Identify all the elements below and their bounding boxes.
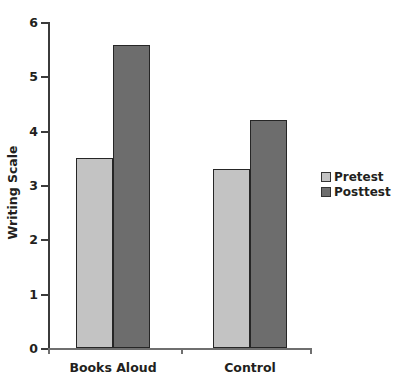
y-axis-tick-1 bbox=[41, 294, 48, 296]
y-axis-tick-label-0-wrap: 0 bbox=[0, 341, 38, 355]
y-axis-tick-0 bbox=[41, 348, 48, 350]
bar-control-pretest bbox=[213, 169, 250, 348]
y-axis-tick-label-0: 0 bbox=[4, 341, 38, 356]
y-axis-tick-label-1-wrap: 1 bbox=[0, 287, 38, 301]
y-axis-tick-label-6-wrap: 6 bbox=[0, 15, 38, 29]
y-axis-line bbox=[48, 22, 50, 349]
x-axis-tick-middle bbox=[181, 348, 183, 354]
bar-control-posttest bbox=[250, 120, 287, 348]
y-axis-tick-label-5-wrap: 5 bbox=[0, 69, 38, 83]
y-axis-tick-5 bbox=[41, 76, 48, 78]
legend-swatch-posttest-icon bbox=[321, 187, 331, 197]
legend-item-posttest: Posttest bbox=[321, 185, 391, 198]
bar-chart: 0 1 2 3 4 5 6 Writing Scale Books Aloud … bbox=[0, 0, 396, 390]
y-axis-tick-6 bbox=[41, 22, 48, 24]
x-axis-label-control: Control bbox=[195, 360, 305, 375]
y-axis-tick-label-5: 5 bbox=[4, 69, 38, 84]
x-axis-line bbox=[48, 348, 312, 350]
legend-item-pretest: Pretest bbox=[321, 170, 391, 183]
y-axis-title: Writing Scale bbox=[5, 143, 20, 243]
bar-books-aloud-pretest bbox=[76, 158, 113, 348]
legend: Pretest Posttest bbox=[321, 170, 391, 200]
x-axis-tick-start bbox=[48, 348, 50, 354]
y-axis-tick-label-1: 1 bbox=[4, 287, 38, 302]
legend-label-posttest: Posttest bbox=[334, 186, 391, 198]
y-axis-tick-label-6: 6 bbox=[4, 15, 38, 30]
x-axis-label-books-aloud: Books Aloud bbox=[58, 360, 168, 375]
bar-books-aloud-posttest bbox=[113, 45, 150, 348]
y-axis-tick-label-4-wrap: 4 bbox=[0, 124, 38, 138]
y-axis-tick-2 bbox=[41, 239, 48, 241]
legend-swatch-pretest-icon bbox=[321, 172, 331, 182]
y-axis-tick-3 bbox=[41, 185, 48, 187]
y-axis-tick-label-4: 4 bbox=[4, 124, 38, 139]
x-axis-tick-end bbox=[310, 348, 312, 354]
y-axis-tick-4 bbox=[41, 131, 48, 133]
legend-label-pretest: Pretest bbox=[334, 171, 384, 183]
